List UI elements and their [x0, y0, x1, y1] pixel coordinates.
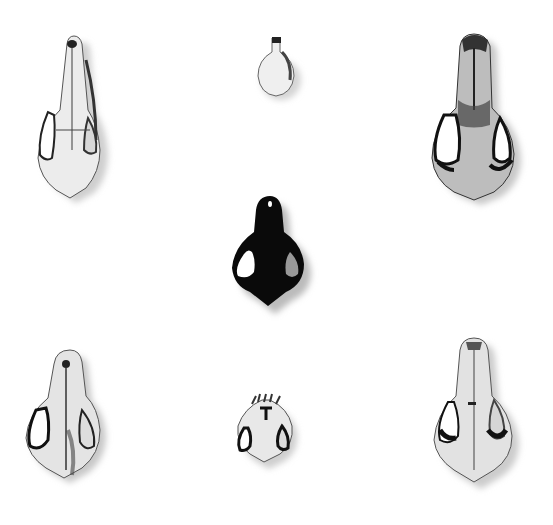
- skull-middle-center: [232, 196, 311, 314]
- skull-bottom-left: [26, 350, 106, 483]
- skull-top-center: [258, 37, 301, 100]
- skull-bottom-right: [434, 338, 519, 489]
- skulls-photo: [0, 0, 553, 525]
- skull-top-left: [38, 36, 108, 203]
- skull-top-right: [432, 34, 521, 205]
- skull-bottom-center: [238, 394, 298, 469]
